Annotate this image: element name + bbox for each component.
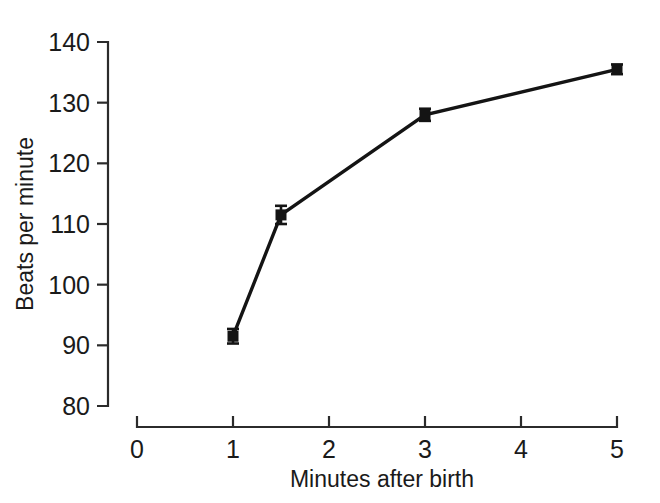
x-tick-label-0: 0 <box>130 435 144 463</box>
x-tick-label-3: 3 <box>418 435 432 463</box>
y-tick-label-110: 110 <box>50 210 90 238</box>
y-tick-label-100: 100 <box>48 271 90 299</box>
x-tick-label-4: 4 <box>514 435 528 463</box>
data-point-marker-1 <box>228 331 239 342</box>
y-tick-label-90: 90 <box>62 331 90 359</box>
data-point-marker-2 <box>276 209 287 220</box>
y-tick-label-80: 80 <box>62 392 90 420</box>
x-axis-title: Minutes after birth <box>290 466 474 492</box>
x-tick-label-5: 5 <box>610 435 624 463</box>
data-point-marker-4 <box>612 64 623 75</box>
x-tick-label-2: 2 <box>322 435 336 463</box>
data-point-marker-3 <box>420 109 431 120</box>
line-chart: 8090100110120130140 012345 Minutes after… <box>0 0 660 503</box>
y-tick-label-130: 130 <box>48 89 90 117</box>
y-tick-label-120: 120 <box>48 149 90 177</box>
y-axis-title: Beats per minute <box>12 137 38 311</box>
x-tick-label-1: 1 <box>226 435 240 463</box>
y-tick-label-140: 140 <box>48 28 90 56</box>
